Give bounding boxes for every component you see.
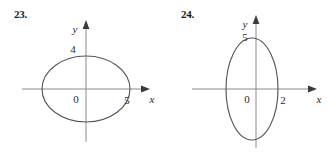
- y-axis-arrow-icon: [253, 15, 260, 24]
- x-axis-arrow-icon: [308, 86, 317, 93]
- y-intercept-label: 5: [242, 31, 248, 43]
- x-axis-label: x: [316, 93, 322, 105]
- y-intercept-label: 4: [70, 43, 76, 55]
- x-intercept-label: 5: [124, 94, 130, 106]
- y-axis-label: y: [242, 18, 248, 30]
- origin-label: 0: [244, 93, 250, 105]
- figure-23-graph: 4 0 5 y x: [0, 0, 167, 160]
- x-intercept-label: 2: [280, 94, 286, 106]
- figure-24-graph: 5 0 2 y x: [167, 0, 334, 160]
- figure-24-panel: 24. 5 0 2 y x: [167, 0, 334, 160]
- origin-label: 0: [73, 93, 79, 105]
- x-axis-label: x: [149, 93, 155, 105]
- figure-page: 23. 4 0 5 y x 24.: [0, 0, 334, 160]
- y-axis-arrow-icon: [83, 20, 90, 29]
- x-axis-arrow-icon: [141, 86, 150, 93]
- figure-23-panel: 23. 4 0 5 y x: [0, 0, 167, 160]
- y-axis-label: y: [72, 23, 78, 35]
